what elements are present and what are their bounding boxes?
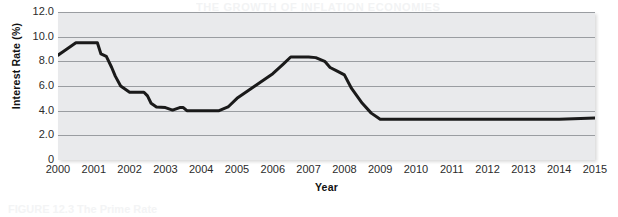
x-axis-tick-label: 2015 <box>573 163 617 176</box>
x-axis-tick-labels: 2000200120022003200420052006200720082009… <box>58 163 595 179</box>
y-axis-tick-label: 2.0 <box>14 129 54 140</box>
x-axis-title: Year <box>58 181 595 193</box>
figure-panel: THE GROWTH OF INFLATION ECONOMIES FIGURE… <box>0 0 618 217</box>
ghost-text-bottom: FIGURE 12.3 The Prime Rate <box>8 203 338 216</box>
y-axis-tick-labels: 12.010.08.06.04.02.00 <box>10 0 54 217</box>
y-axis-tick-label: 10.0 <box>14 31 54 42</box>
plot-area <box>58 12 595 160</box>
y-axis-tick-label: 4.0 <box>14 105 54 116</box>
y-axis-tick-label: 8.0 <box>14 55 54 66</box>
y-axis-tick-label: 12.0 <box>14 6 54 17</box>
y-axis-tick-label: 6.0 <box>14 80 54 91</box>
series-line-interest-rate <box>58 12 595 160</box>
